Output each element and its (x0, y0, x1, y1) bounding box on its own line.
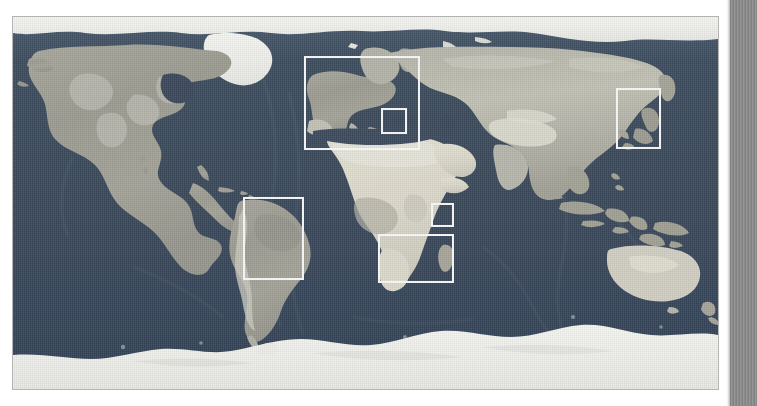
roi-box-japan (616, 88, 661, 149)
world-map-figure (12, 16, 719, 390)
page-edge-strip (730, 0, 757, 406)
roi-box-east-africa (431, 203, 454, 227)
page-root (0, 0, 757, 406)
roi-box-europe (304, 56, 420, 150)
roi-box-italy (381, 108, 407, 134)
roi-box-south-america (243, 197, 304, 280)
roi-box-southern-africa (378, 234, 454, 283)
